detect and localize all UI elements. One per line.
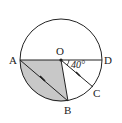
label-D: D [104, 54, 112, 66]
parallel-arrow-OC [76, 72, 80, 76]
angle-arc [67, 60, 69, 65]
circle-diagram: A O D C B 40° [0, 0, 122, 123]
label-C: C [93, 87, 100, 99]
center-point-O [59, 58, 62, 61]
label-O: O [56, 45, 64, 57]
label-A: A [9, 54, 17, 66]
label-B: B [64, 104, 71, 116]
angle-label: 40° [71, 59, 85, 70]
